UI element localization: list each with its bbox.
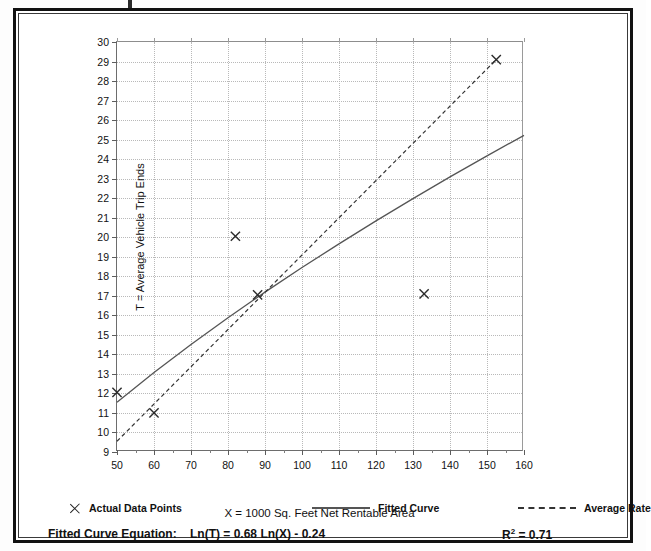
y-tick-label: 17 <box>97 291 109 302</box>
y-tick-label: 28 <box>97 76 109 87</box>
y-tick-label: 30 <box>97 37 109 48</box>
y-tick-label: 11 <box>98 408 109 419</box>
legend-label-fitted-curve: Fitted Curve <box>378 502 439 514</box>
x-tick-label: 120 <box>367 460 385 471</box>
plot-region: 9101112131415161718192021222324252627282… <box>116 41 523 451</box>
y-tick-label: 19 <box>97 252 109 263</box>
y-tick-label: 10 <box>97 427 109 438</box>
legend-label-average-rate: Average Rate <box>584 502 651 514</box>
x-tick-label: 60 <box>148 460 160 471</box>
r-squared-symbol: R <box>502 528 511 542</box>
r-squared-exponent: 2 <box>511 527 515 536</box>
y-tick-label: 23 <box>97 173 109 184</box>
y-tick-label: 14 <box>97 349 109 360</box>
y-tick-label: 15 <box>97 330 109 341</box>
legend-item-actual-data-points: Actual Data Points <box>68 498 182 518</box>
figure-frame: 9101112131415161718192021222324252627282… <box>13 8 633 543</box>
dashed-line-swatch-icon <box>518 507 576 509</box>
y-tick-label: 22 <box>97 193 109 204</box>
y-tick-label: 16 <box>97 310 109 321</box>
y-tick-label: 12 <box>97 388 109 399</box>
legend: Actual Data Points Fitted Curve Average … <box>32 498 614 522</box>
y-tick-label: 20 <box>97 232 109 243</box>
x-tick-label: 100 <box>293 460 311 471</box>
plot-area: 9101112131415161718192021222324252627282… <box>116 41 523 451</box>
x-tick-label: 80 <box>222 460 234 471</box>
x-tick-label: 150 <box>478 460 496 471</box>
data-point-marker <box>492 55 501 64</box>
y-axis-title: T = Average Vehicle Trip Ends <box>134 37 146 437</box>
x-tick-label: 130 <box>404 460 422 471</box>
fitted-curve-equation: Fitted Curve Equation: Ln(T) = 0.68 Ln(X… <box>48 527 325 541</box>
y-tick-label: 24 <box>97 154 109 165</box>
r-squared-number: = 0.71 <box>518 528 552 542</box>
x-tick-label: 90 <box>259 460 271 471</box>
legend-label-actual-data-points: Actual Data Points <box>89 502 182 514</box>
data-layer <box>117 42 524 452</box>
data-point-marker <box>420 289 429 298</box>
y-tick-label: 21 <box>97 212 109 223</box>
footer-equation-row: Fitted Curve Equation: Ln(T) = 0.68 Ln(X… <box>32 527 614 549</box>
axis-tick <box>524 450 525 455</box>
actual-data-points-markers <box>112 55 500 418</box>
y-tick-label: 25 <box>97 134 109 145</box>
x-tick-label: 50 <box>111 460 123 471</box>
average-rate-line <box>117 60 496 442</box>
x-tick-label: 160 <box>515 460 533 471</box>
equation-formula: Ln(T) = 0.68 Ln(X) - 0.24 <box>190 527 325 541</box>
y-tick-label: 29 <box>97 56 109 67</box>
y-tick-label: 18 <box>97 271 109 282</box>
equation-label: Fitted Curve Equation: <box>48 527 177 541</box>
solid-line-swatch-icon <box>312 507 370 509</box>
y-tick-label: 13 <box>97 369 109 380</box>
data-point-marker <box>231 232 240 241</box>
x-tick-label: 70 <box>185 460 197 471</box>
fitted-curve-line <box>117 135 524 402</box>
x-tick-label: 110 <box>331 460 348 471</box>
x-tick-label: 140 <box>441 460 459 471</box>
cross-marker-icon <box>68 502 81 515</box>
r-squared-value: R2 = 0.71 <box>502 527 552 542</box>
y-tick-label: 27 <box>97 95 109 106</box>
y-tick-label: 26 <box>97 115 109 126</box>
axis-tick-top <box>524 38 525 42</box>
legend-item-fitted-curve: Fitted Curve <box>312 498 439 518</box>
data-point-marker <box>149 408 158 417</box>
y-tick-label: 9 <box>103 447 109 458</box>
legend-item-average-rate: Average Rate <box>518 498 651 518</box>
